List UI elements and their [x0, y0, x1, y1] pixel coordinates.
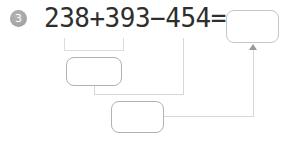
- step1-box[interactable]: [66, 57, 122, 86]
- equation-text: 238+393−454=: [44, 5, 226, 32]
- step2-right-horizontal-line: [164, 116, 254, 117]
- problem-number-badge: 3: [10, 10, 27, 27]
- bracket-bottom-line: [64, 50, 124, 51]
- step2-box[interactable]: [111, 101, 164, 133]
- arrow-up-icon: [249, 44, 257, 50]
- step1-to-454-horizontal-line: [94, 94, 184, 95]
- bracket-right-line: [123, 38, 124, 51]
- worksheet-problem: 3 238+393−454=: [0, 0, 291, 142]
- line-from-454: [183, 38, 184, 95]
- answer-box[interactable]: [226, 10, 279, 43]
- step2-up-vertical-line: [253, 48, 254, 117]
